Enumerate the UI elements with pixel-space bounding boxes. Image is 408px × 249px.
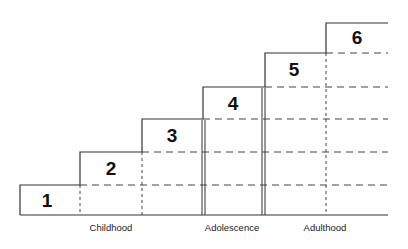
stage-label-adulthood: Adulthood [304,222,347,233]
step-number-3: 3 [167,125,178,147]
level-dashed-lines [80,53,388,185]
step-number-6: 6 [352,27,363,49]
step-number-5: 5 [289,59,300,81]
step-number-4: 4 [228,93,239,115]
step-number-2: 2 [106,158,117,180]
stage-label-childhood: Childhood [90,222,133,233]
stage-label-adolescence: Adolescence [205,222,259,233]
staircase-diagram [0,0,408,249]
step-number-1: 1 [42,190,53,212]
